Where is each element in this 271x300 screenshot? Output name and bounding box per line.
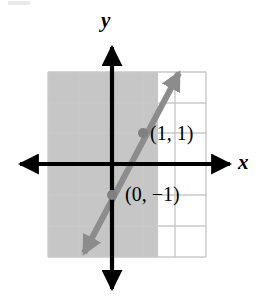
coordinate-plane-svg — [0, 0, 271, 300]
point-label-1-1: (1, 1) — [150, 123, 193, 143]
x-axis-label: x — [238, 152, 249, 173]
point-marker-1-1 — [138, 128, 148, 138]
y-axis-label: y — [101, 10, 110, 31]
graph-figure: y x (1, 1) (0, −1) — [0, 0, 271, 300]
point-marker-0-neg1 — [107, 190, 117, 200]
point-label-0-neg1: (0, −1) — [125, 184, 180, 204]
